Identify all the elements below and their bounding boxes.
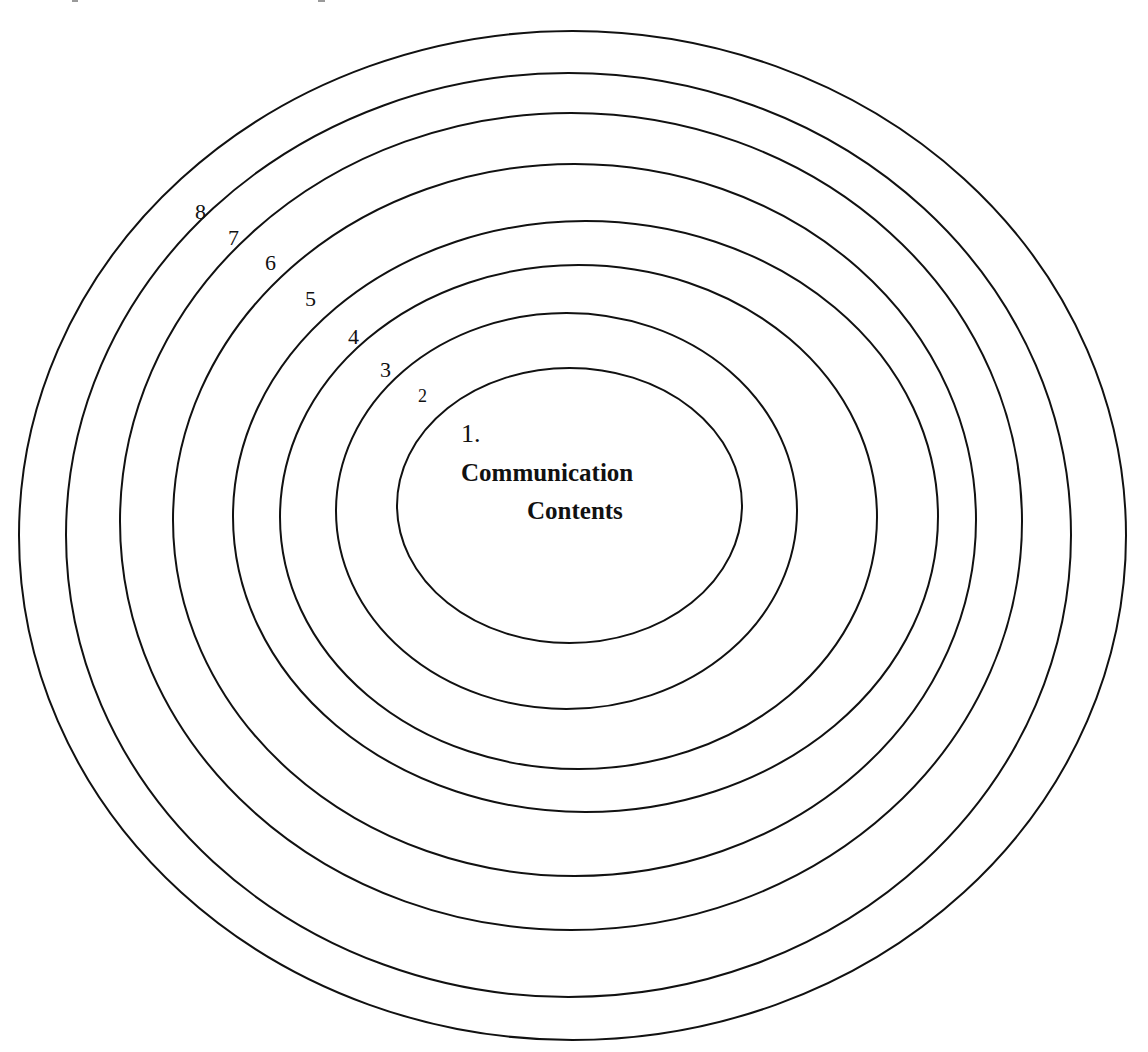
ring-label-3: 3 bbox=[380, 357, 391, 382]
ring-label-7: 7 bbox=[228, 225, 239, 250]
ring-label-8: 8 bbox=[195, 199, 206, 224]
core-title-line1: Communication bbox=[461, 459, 633, 486]
diagram-canvas: 8 7 6 5 4 3 2 1. Communication Contents bbox=[0, 0, 1148, 1052]
cropped-title-remnant bbox=[72, 0, 325, 2]
ring-label-2: 2 bbox=[418, 386, 427, 406]
core-title-line2: Contents bbox=[527, 497, 623, 524]
ring-label-4: 4 bbox=[348, 324, 359, 349]
ring-label-5: 5 bbox=[305, 286, 316, 311]
ring-label-6: 6 bbox=[265, 250, 276, 275]
concentric-ellipses-diagram: 8 7 6 5 4 3 2 1. Communication Contents bbox=[0, 0, 1148, 1052]
core-number: 1. bbox=[461, 419, 481, 448]
